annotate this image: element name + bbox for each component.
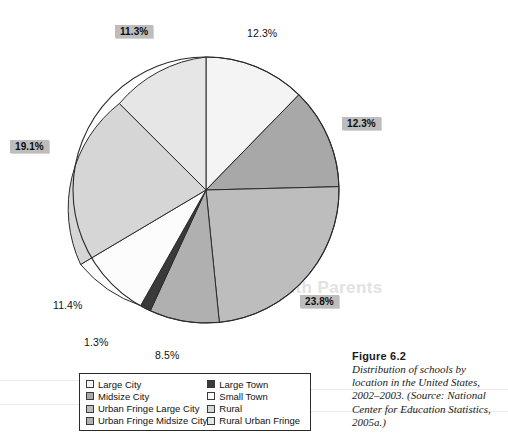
legend-item-large-city[interactable]: Large City (86, 378, 207, 390)
figure-caption-text: Distribution of schools by location in t… (352, 363, 504, 429)
pie-label-large-city: 12.3% (247, 27, 277, 39)
legend-swatch-icon (207, 405, 215, 413)
legend-label: Urban Fringe Midsize City (98, 415, 207, 426)
pie-label-urban-fringe-midsize-city: 8.5% (155, 349, 179, 361)
legend-label: Large City (98, 379, 141, 390)
legend-item-small-town[interactable]: Small Town (207, 390, 306, 402)
pie-label-midsize-city: 12.3% (342, 117, 381, 130)
legend-item-rural-urban-fringe[interactable]: Rural Urban Fringe (207, 415, 306, 427)
legend-label: Rural Urban Fringe (219, 415, 300, 426)
pie-label-rural: 19.1% (10, 140, 49, 153)
legend-label: Midsize City (98, 391, 149, 402)
pie-label-rural-urban-fringe: 11.3% (115, 25, 153, 38)
legend-label: Small Town (219, 391, 267, 402)
legend-swatch-icon (86, 380, 94, 388)
legend-swatch-icon (86, 405, 94, 413)
figure-number: Figure 6.2 (352, 350, 504, 362)
pie-chart: 11.3% 12.3% 12.3% 23.8% 19.1% 11.4% 1.3%… (0, 0, 360, 368)
legend-label: Large Town (219, 379, 268, 390)
pie-label-urban-fringe-large-city: 23.8% (300, 295, 339, 308)
legend-item-urban-fringe-midsize-city[interactable]: Urban Fringe Midsize City (86, 415, 207, 427)
legend-column-right: Large Town Small Town Rural Rural Urban … (207, 378, 306, 427)
legend-item-large-town[interactable]: Large Town (207, 378, 306, 390)
legend-swatch-icon (207, 417, 215, 425)
legend-label: Rural (219, 403, 242, 414)
chart-legend: Large City Midsize City Urban Fringe Lar… (79, 373, 311, 431)
legend-swatch-icon (86, 392, 94, 400)
legend-swatch-icon (86, 417, 94, 425)
pie-svg (0, 0, 360, 368)
figure-caption: Figure 6.2 Distribution of schools by lo… (352, 350, 504, 429)
pie-label-large-town: 1.3% (84, 336, 108, 348)
legend-column-left: Large City Midsize City Urban Fringe Lar… (86, 378, 207, 427)
legend-item-urban-fringe-large-city[interactable]: Urban Fringe Large City (86, 403, 207, 415)
legend-label: Urban Fringe Large City (98, 403, 199, 414)
legend-swatch-icon (207, 392, 215, 400)
pie-label-small-town: 11.4% (53, 299, 83, 311)
legend-item-rural[interactable]: Rural (207, 403, 306, 415)
legend-swatch-icon (207, 380, 215, 388)
legend-item-midsize-city[interactable]: Midsize City (86, 390, 207, 402)
